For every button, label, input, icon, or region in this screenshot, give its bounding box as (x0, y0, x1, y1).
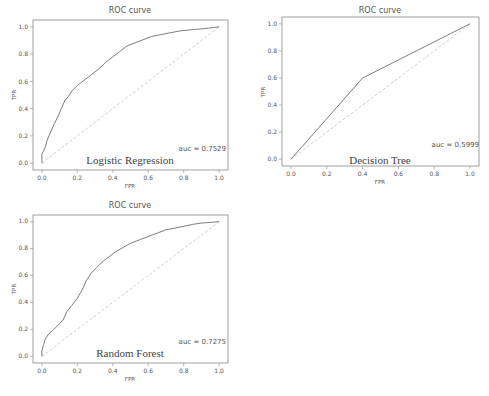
svg-text:0.0: 0.0 (18, 352, 28, 359)
svg-text:1.0: 1.0 (214, 367, 224, 374)
x-ticks: 0.0 0.2 0.4 0.6 0.8 1.0 (286, 166, 475, 177)
svg-text:0.4: 0.4 (108, 174, 118, 181)
svg-text:0.2: 0.2 (18, 132, 28, 139)
y-axis-label: TPR (11, 284, 17, 296)
svg-text:0.6: 0.6 (267, 74, 277, 81)
svg-text:0.2: 0.2 (73, 174, 83, 181)
x-axis-label: FPR (375, 179, 385, 185)
svg-text:0.0: 0.0 (18, 159, 28, 166)
svg-text:0.4: 0.4 (18, 105, 28, 112)
model-label: Logistic Regression (86, 154, 174, 166)
auc-annotation: auc = 0.7275 (179, 338, 226, 346)
svg-text:0.6: 0.6 (18, 271, 28, 278)
svg-text:0.4: 0.4 (267, 101, 277, 108)
svg-text:1.0: 1.0 (18, 217, 28, 224)
y-axis-label: TPR (260, 87, 266, 99)
svg-text:0.0: 0.0 (37, 367, 47, 374)
x-axis-label: FPR (125, 376, 135, 382)
x-ticks: 0.0 0.2 0.4 0.6 0.8 1.0 (37, 363, 224, 374)
chart-title: ROC curve (359, 6, 401, 15)
svg-text:0.6: 0.6 (143, 367, 153, 374)
chart-panel-logistic-regression: ROC curve 0.0 0.2 0.4 0.6 0.8 1.0 0.0 0.… (0, 0, 240, 190)
svg-text:0.8: 0.8 (18, 244, 28, 251)
svg-text:0.2: 0.2 (322, 170, 332, 177)
svg-text:0.0: 0.0 (286, 170, 296, 177)
svg-text:0.6: 0.6 (394, 170, 404, 177)
y-axis-label: TPR (11, 90, 17, 102)
svg-text:0.8: 0.8 (179, 367, 189, 374)
svg-text:0.8: 0.8 (429, 170, 439, 177)
roc-chart-decision-tree: ROC curve 0.0 0.2 0.4 0.6 0.8 1.0 0.0 0.… (245, 0, 489, 190)
svg-text:0.6: 0.6 (18, 78, 28, 85)
svg-text:1.0: 1.0 (214, 174, 224, 181)
svg-text:0.2: 0.2 (73, 367, 83, 374)
svg-text:1.0: 1.0 (267, 20, 277, 27)
svg-text:0.4: 0.4 (18, 298, 28, 305)
model-label: Random Forest (96, 347, 164, 359)
chance-line (42, 222, 219, 357)
chart-panel-random-forest: ROC curve 0.0 0.2 0.4 0.6 0.8 1.0 0.0 0.… (0, 195, 240, 385)
svg-text:1.0: 1.0 (465, 170, 475, 177)
model-label: Decision Tree (349, 154, 411, 166)
chart-title: ROC curve (109, 201, 151, 210)
cropped-caption (0, 390, 489, 396)
y-ticks: 0.0 0.2 0.4 0.6 0.8 1.0 (18, 23, 33, 166)
svg-text:0.8: 0.8 (18, 50, 28, 57)
x-ticks: 0.0 0.2 0.4 0.6 0.8 1.0 (37, 170, 224, 181)
svg-text:0.0: 0.0 (267, 155, 277, 162)
svg-text:0.8: 0.8 (267, 47, 277, 54)
auc-annotation: auc = 0.7529 (179, 145, 226, 153)
chance-line (42, 27, 219, 163)
chance-line (291, 24, 470, 159)
svg-text:1.0: 1.0 (18, 23, 28, 30)
svg-text:0.8: 0.8 (179, 174, 189, 181)
svg-text:0.2: 0.2 (18, 325, 28, 332)
x-axis-label: FPR (125, 183, 135, 189)
svg-text:0.2: 0.2 (267, 128, 277, 135)
roc-chart-random-forest: ROC curve 0.0 0.2 0.4 0.6 0.8 1.0 0.0 0.… (0, 195, 240, 385)
y-ticks: 0.0 0.2 0.4 0.6 0.8 1.0 (18, 217, 33, 359)
svg-text:0.0: 0.0 (37, 174, 47, 181)
svg-text:0.4: 0.4 (358, 170, 368, 177)
auc-annotation: auc = 0.5999 (432, 141, 479, 149)
chart-title: ROC curve (109, 6, 151, 15)
svg-text:0.4: 0.4 (108, 367, 118, 374)
svg-text:0.6: 0.6 (143, 174, 153, 181)
roc-chart-logistic-regression: ROC curve 0.0 0.2 0.4 0.6 0.8 1.0 0.0 0.… (0, 0, 240, 190)
chart-panel-decision-tree: ROC curve 0.0 0.2 0.4 0.6 0.8 1.0 0.0 0.… (245, 0, 489, 190)
y-ticks: 0.0 0.2 0.4 0.6 0.8 1.0 (267, 20, 282, 162)
